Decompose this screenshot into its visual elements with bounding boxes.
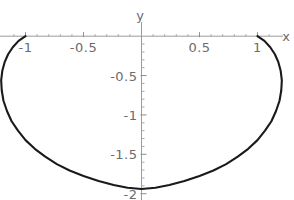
y-tick-label-3: -2	[124, 187, 138, 200]
y-tick-label-2: -1.5	[110, 147, 137, 162]
y-tick-label-0: -0.5	[110, 69, 137, 84]
y-tick-label-1: -1	[124, 108, 138, 123]
plot-figure: -1-0.50.51 -0.5-1-1.5-2 y x	[0, 0, 294, 200]
x-tick-label-1: -0.5	[70, 40, 97, 55]
x-axis-label: x	[282, 29, 290, 44]
x-tick-label-3: 1	[253, 40, 262, 55]
y-axis-tick-labels: -0.5-1-1.5-2	[110, 69, 137, 200]
y-axis-label: y	[136, 8, 144, 23]
x-tick-label-2: 0.5	[188, 40, 210, 55]
plot-canvas: -1-0.50.51 -0.5-1-1.5-2 y x	[0, 0, 294, 200]
x-tick-label-0: -1	[19, 40, 33, 55]
x-axis-tick-labels: -1-0.50.51	[19, 40, 262, 55]
